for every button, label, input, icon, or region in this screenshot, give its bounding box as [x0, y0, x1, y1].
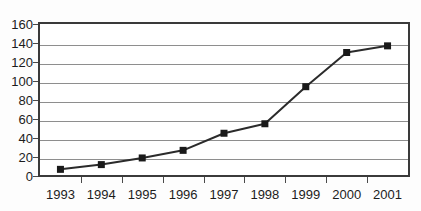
- data-point-marker: [98, 161, 105, 168]
- series-line: [60, 46, 387, 170]
- data-point-marker: [221, 130, 228, 137]
- data-series: [0, 0, 421, 211]
- data-point-marker: [139, 154, 146, 161]
- data-point-marker: [57, 166, 64, 173]
- line-chart: 020406080100120140160 199319941995199619…: [0, 0, 421, 211]
- data-point-marker: [261, 120, 268, 127]
- data-point-marker: [343, 49, 350, 56]
- data-point-marker: [384, 42, 391, 49]
- data-point-marker: [302, 83, 309, 90]
- series-markers: [57, 42, 391, 173]
- data-point-marker: [180, 147, 187, 154]
